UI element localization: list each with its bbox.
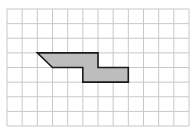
grid-diagram — [0, 0, 196, 133]
